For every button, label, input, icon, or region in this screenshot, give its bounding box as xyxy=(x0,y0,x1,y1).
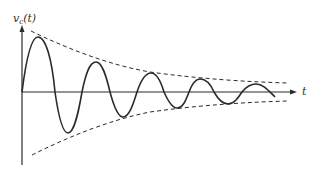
damped-sinusoid-curve xyxy=(22,37,275,133)
y-axis xyxy=(20,25,25,165)
damped-oscillation-diagram: vc(t) t xyxy=(0,0,316,171)
x-axis-label: t xyxy=(302,85,307,98)
upper-envelope-curve xyxy=(31,31,288,83)
y-axis-arrow-icon xyxy=(20,25,25,32)
x-axis xyxy=(22,90,297,95)
x-axis-arrow-icon xyxy=(290,90,297,95)
lower-envelope-curve xyxy=(32,101,288,155)
y-axis-label: vc(t) xyxy=(13,12,36,26)
